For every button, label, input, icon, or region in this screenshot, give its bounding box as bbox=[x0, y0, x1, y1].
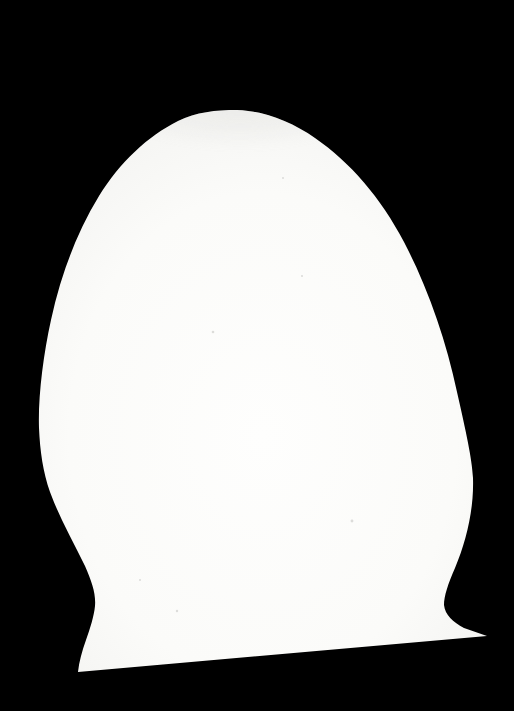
dust-speck bbox=[351, 520, 354, 523]
dust-speck bbox=[282, 177, 284, 179]
dust-speck bbox=[212, 331, 215, 334]
dust-speck bbox=[139, 579, 141, 581]
photo-canvas bbox=[0, 0, 514, 711]
dust-speck bbox=[176, 610, 178, 612]
photo-silhouette bbox=[0, 0, 514, 711]
dust-speck bbox=[301, 275, 303, 277]
